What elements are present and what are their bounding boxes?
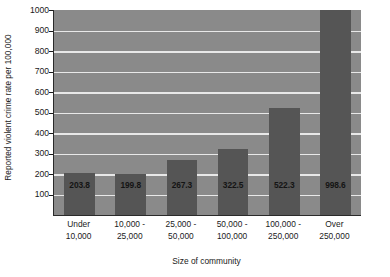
x-tick-label-line: 50,000 - xyxy=(207,219,258,231)
x-tick-label: Under10,000 xyxy=(53,219,104,242)
y-tick-mark xyxy=(49,174,53,175)
x-tick-label-line: 10,000 xyxy=(53,231,104,243)
bar-value-label: 322.5 xyxy=(218,180,249,190)
x-tick-label-line: 250,000 xyxy=(258,231,309,243)
y-tick-mark xyxy=(49,113,53,114)
bar-value-label: 267.3 xyxy=(167,180,198,190)
x-tick-label: 50,000 -100,000 xyxy=(207,219,258,242)
y-tick-mark xyxy=(49,92,53,93)
x-tick-label-line: 25,000 xyxy=(104,231,155,243)
y-tick-mark xyxy=(49,10,53,11)
x-tick-label-line: Under xyxy=(53,219,104,231)
y-tick-mark xyxy=(49,195,53,196)
x-tick-label-line: Over xyxy=(309,219,360,231)
bar-value-label: 199.8 xyxy=(115,180,146,190)
plot-area: 203.8199.8267.3322.5522.3998.6 xyxy=(53,10,361,216)
x-tick-label-line: 250,000 xyxy=(309,231,360,243)
y-tick-label: 800 xyxy=(16,47,49,56)
x-tick-label-line: 50,000 xyxy=(155,231,206,243)
x-tick-label: 25,000 -50,000 xyxy=(155,219,206,242)
y-tick-mark xyxy=(49,72,53,73)
y-tick-label: 700 xyxy=(16,67,49,76)
y-tick-label: 400 xyxy=(16,129,49,138)
y-tick-mark xyxy=(49,51,53,52)
y-tick-label: 500 xyxy=(16,108,49,117)
y-tick-mark xyxy=(49,154,53,155)
x-tick-label-line: 25,000 - xyxy=(155,219,206,231)
bars-group: 203.8199.8267.3322.5522.3998.6 xyxy=(54,10,361,215)
y-tick-label: 600 xyxy=(16,88,49,97)
x-axis-title: Size of community xyxy=(53,256,360,266)
bar-value-label: 203.8 xyxy=(64,180,95,190)
y-tick-label: 100 xyxy=(16,190,49,199)
x-tick-label-line: 10,000 - xyxy=(104,219,155,231)
y-tick-label: 300 xyxy=(16,149,49,158)
bar-value-label: 998.6 xyxy=(320,180,351,190)
x-tick-label: Over250,000 xyxy=(309,219,360,242)
y-tick-label: 1000 xyxy=(16,6,49,15)
y-axis-title: Reported violent crime rate per 100,000 xyxy=(1,0,17,215)
x-tick-label-line: 100,000 xyxy=(207,231,258,243)
x-tick-label-line: 100,000 - xyxy=(258,219,309,231)
x-tick-label: 100,000 -250,000 xyxy=(258,219,309,242)
y-tick-label: 200 xyxy=(16,170,49,179)
y-tick-label: 900 xyxy=(16,26,49,35)
y-tick-mark xyxy=(49,31,53,32)
bar-chart-figure: Reported violent crime rate per 100,000 … xyxy=(0,0,390,277)
x-axis-tick-labels: Under10,00010,000 -25,00025,000 -50,0005… xyxy=(53,219,360,249)
y-tick-mark xyxy=(49,133,53,134)
bar xyxy=(269,108,300,215)
x-tick-label: 10,000 -25,000 xyxy=(104,219,155,242)
y-axis-tick-labels: 1002003004005006007008009001000 xyxy=(16,10,49,215)
bar-value-label: 522.3 xyxy=(269,180,300,190)
